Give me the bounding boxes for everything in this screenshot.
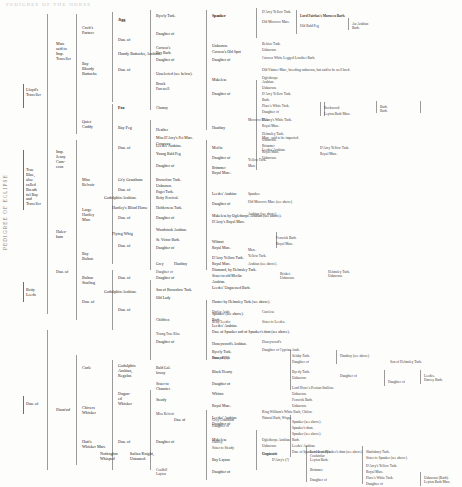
pedigree-entry: Leedes' Arabian [212,192,236,197]
pedigree-entry: Daughter of [156,216,174,221]
bracket-rule [206,410,207,480]
pedigree-entry: Lloyd'sTraveller [26,88,41,98]
pedigree-entry: Paget Turk. [156,190,174,195]
bracket-rule [76,355,77,465]
pedigree-entry: Daughter of [212,202,230,207]
bracket-rule [256,8,257,38]
pedigree-entry: Barb. [262,98,270,102]
pedigree-entry: Daughter of [212,58,230,63]
pedigree-entry: Royal Mare. [212,262,231,267]
pedigree-entry: Royal Mare. [212,404,231,409]
pedigree-entry: Arabian (see above). [248,212,277,216]
pedigree-entry: Young True Blue [156,332,180,336]
pedigree-entry: Belsize Turk. [262,42,281,46]
pedigree-entry: Unknown. [292,404,307,408]
pedigree-entry: King William's White Barb, Chilon. [262,410,312,414]
pedigree-entry: Old Bald Peg [300,24,319,28]
pedigree-entry: Lord Fairfax's Morocco Barb. [300,14,345,18]
pedigree-entry: Royal Mare. [320,152,338,156]
pedigree-entry: Oglethorpe Arabian. [262,438,291,442]
pedigree-entry: Arabian (see above). [248,262,277,266]
pedigree-entry: Hautboy [212,126,225,131]
pedigree-entry: Daughter of [156,32,174,37]
pedigree-entry: Daughter of [292,360,309,364]
pedigree-entry: Natural Barb, Wispy. [262,416,292,420]
pedigree-entry: Dugon-edWhisker [118,392,132,407]
pedigree-entry: Dau. of [118,146,130,151]
bracket-rule [23,396,24,414]
pedigree-entry: Leedes' Arabian. [212,324,237,329]
pedigree-entry: Dau. of [26,402,38,407]
pedigree-entry: Honeywood's Arabian. [212,342,247,347]
pedigree-entry: BoltonStarling [82,276,95,286]
pedigree-entry: QuietCuddy [82,120,93,130]
pedigree-entry: Curwen's Old Spot [212,50,241,55]
pedigree-entry: Grey Grantham [212,418,234,422]
bracket-rule [206,140,207,270]
bracket-rule [23,150,24,210]
pedigree-entry: Bay Layton [212,458,230,463]
bracket-rule [256,80,257,130]
pedigree-entry: Unknown. [292,376,307,380]
pedigree-entry: D'Arcy's (?) [272,458,289,462]
pedigree-entry: Hales-ham [56,230,67,240]
pedigree-entry: Unknown. [262,48,277,52]
pedigree-entry: Daughter of [156,270,173,274]
pedigree-entry: BayBloodyButtocks [82,62,97,77]
pedigree-entry: Curwen White Legged Lowther Barb. [262,56,315,60]
pedigree-entry: Daughter of [212,156,230,161]
bracket-rule [420,370,421,384]
pedigree-entry: MissBelvoir [82,178,94,188]
pedigree-entry: Leedes.Darcey Barb. [424,374,443,383]
pedigree-entry: Hartley's Blind Horse [112,206,148,211]
bracket-rule [420,472,421,486]
pedigree-entry: Unknown. [262,138,277,142]
pedigree-entry: Daughter of [212,424,229,428]
pedigree-entry: Dau. of [118,308,130,313]
pedigree-entry: Helmsley Turk. [262,132,284,136]
pedigree-entry: Dau. of [82,300,94,305]
pedigree-entry: Son of Brownlow Turk. [156,288,192,293]
pedigree-entry: Dau. of [118,216,130,221]
pedigree-entry: Maresaid toImp.Traveller [56,42,71,62]
pedigree-entry: Careless [262,310,274,314]
bracket-rule [206,300,207,360]
pedigree-entry: Dau. of [56,270,68,275]
pedigree-entry: Leedes' Arabian. [292,444,315,448]
pedigree-entry: Leedes' Unguessed Barb. [212,286,250,291]
bracket-rule [47,330,48,470]
pedigree-entry: Clumsy [156,106,168,111]
pedigree-entry: Hautboy [174,262,187,267]
pedigree-entry: Unknown. [262,86,277,90]
pedigree-entry: Dau. of [118,244,130,249]
pedigree-entry: Sister toChaunter [156,382,170,391]
pedigree-entry: Spanker's dam. [292,426,313,430]
pedigree-entry: Betty Leedes [212,320,230,324]
pedigree-entry: Curle [82,366,91,371]
pedigree-entry: Sister to Spanker (see above). [366,456,408,460]
pedigree-entry: D'Arcy Yellow Turk. [212,256,244,261]
pedigree-entry: Byerly Turk. [292,370,310,374]
pedigree-entry: Daughter of [262,110,279,114]
pedigree-entry: Diam'nd [56,408,70,413]
bracket-rule [376,101,377,113]
pedigree-entry: Children [156,318,169,323]
pedigree-entry: BrimmerRoyal Mare. [212,166,231,175]
pedigree-entry: Brimmer [262,144,275,148]
pedigree-entry: Fenwick Barb. [292,398,313,402]
pedigree-entry: Royal Mare. [276,242,294,246]
bracket-rule [150,10,151,110]
pedigree-entry: Curwen'sBay Barb. [156,46,171,55]
pedigree-entry: Unknown. [156,184,172,189]
pedigree-entry: BrockFarewell [156,82,169,91]
pedigree-entry: Woodstock Arabian. [156,228,187,233]
pedigree-entry: Dau. of [118,38,130,43]
pedigree-entry: Black Hearty [212,370,232,375]
pedigree-entry: Honeywood's [262,340,281,344]
pedigree-entry: Dau. of Spanker and of Spanker's dam (se… [212,330,290,335]
pedigree-entry: Old Morocco Mare (see above). [248,200,293,204]
bracket-rule [206,10,207,130]
pedigree-entry: Spanker. [248,192,260,196]
pedigree-entry: Jigg [118,18,125,23]
pedigree-entry: Unknown. [212,44,228,49]
